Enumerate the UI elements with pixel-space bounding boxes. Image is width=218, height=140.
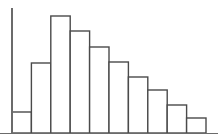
histogram-bar [167,105,186,133]
histogram-bar [128,77,147,133]
bars-group [12,16,206,133]
histogram-bar [70,31,89,133]
histogram-bar [187,118,206,133]
histogram-bar [109,62,128,133]
histogram-bar [51,16,70,133]
chart-canvas [0,0,218,140]
histogram-bar [31,63,50,133]
histogram-bar [90,47,109,133]
histogram-bar [12,112,31,133]
histogram-chart [0,0,218,140]
histogram-bar [148,90,167,133]
